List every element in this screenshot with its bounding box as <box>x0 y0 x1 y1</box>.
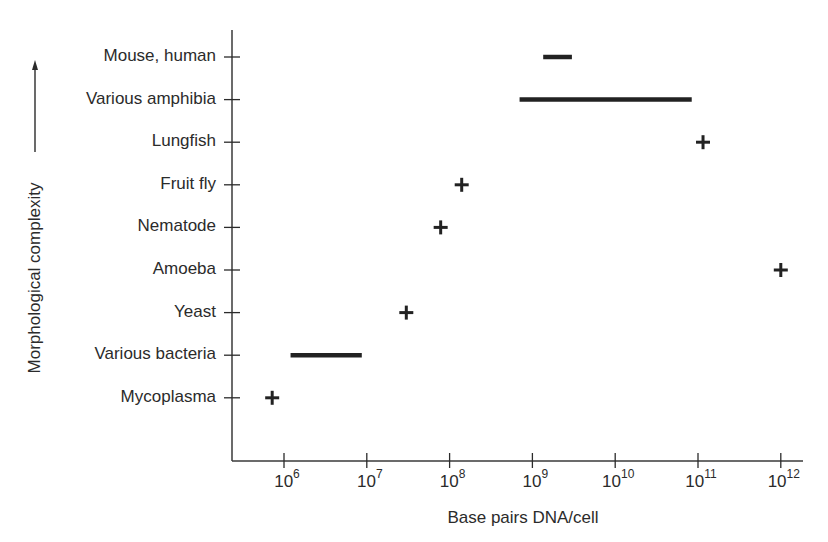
x-tick-label: 1012 <box>768 472 800 492</box>
category-label: Nematode <box>138 216 216 236</box>
category-label: Various bacteria <box>94 344 216 364</box>
up-arrow-icon <box>32 60 38 152</box>
tick-exponent: 10 <box>621 467 634 481</box>
x-tick-label: 106 <box>274 472 300 492</box>
tick-base: 10 <box>768 472 787 491</box>
x-tick-label: 109 <box>523 472 549 492</box>
tick-base: 10 <box>274 472 293 491</box>
tick-base: 10 <box>357 472 376 491</box>
tick-exponent: 9 <box>542 467 549 481</box>
tick-base: 10 <box>440 472 459 491</box>
tick-base: 10 <box>523 472 542 491</box>
y-axis-title: Morphological complexity <box>25 183 45 374</box>
x-tick-label: 1011 <box>685 472 716 492</box>
category-label: Various amphibia <box>86 89 216 109</box>
plus-marker-icon <box>399 306 413 320</box>
category-label: Fruit fly <box>160 174 216 194</box>
tick-exponent: 12 <box>787 467 800 481</box>
category-label: Mycoplasma <box>121 387 216 407</box>
tick-exponent: 11 <box>704 467 716 481</box>
plot-area <box>0 0 828 542</box>
data-markers <box>265 57 788 405</box>
category-label: Yeast <box>174 302 216 322</box>
x-tick-label: 108 <box>440 472 466 492</box>
category-label: Lungfish <box>152 131 216 151</box>
plus-marker-icon <box>455 178 469 192</box>
plus-marker-icon <box>434 220 448 234</box>
plus-marker-icon <box>774 263 788 277</box>
x-tick-label: 1010 <box>602 472 634 492</box>
plus-marker-icon <box>265 391 279 405</box>
tick-exponent: 6 <box>293 467 300 481</box>
tick-base: 10 <box>602 472 621 491</box>
genome-size-chart: Mouse, humanVarious amphibiaLungfishFrui… <box>0 0 828 542</box>
x-tick-label: 107 <box>357 472 383 492</box>
plus-marker-icon <box>696 135 710 149</box>
tick-exponent: 7 <box>376 467 383 481</box>
x-axis-title: Base pairs DNA/cell <box>0 508 828 528</box>
category-label: Mouse, human <box>104 46 216 66</box>
tick-base: 10 <box>685 472 704 491</box>
category-label: Amoeba <box>153 259 216 279</box>
tick-exponent: 8 <box>459 467 466 481</box>
